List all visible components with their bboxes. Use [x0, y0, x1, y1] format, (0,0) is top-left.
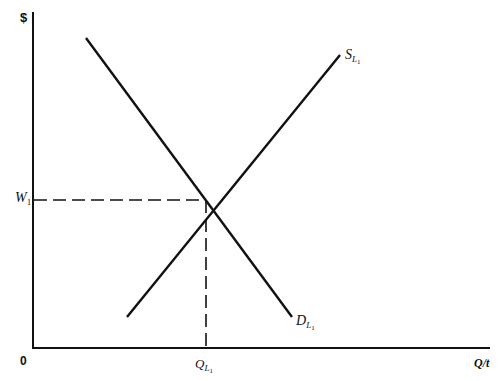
- demand-label-subsub: 1: [311, 324, 315, 332]
- supply-demand-diagram: [0, 0, 500, 381]
- supply-label: SL1: [345, 47, 361, 66]
- quantity-label-sub: L1: [204, 363, 213, 373]
- demand-label-sub: L1: [306, 320, 315, 330]
- supply-label-main: S: [345, 47, 352, 62]
- price-label-main: W: [15, 190, 27, 205]
- demand-label: DL1: [296, 313, 315, 332]
- supply-label-sub: L1: [352, 54, 361, 64]
- quantity-label-subsub: 1: [209, 367, 213, 375]
- quantity-label: QL1: [195, 356, 213, 375]
- supply-label-subsub: 1: [357, 58, 361, 66]
- demand-label-main: D: [296, 313, 306, 328]
- y-axis-label: $: [20, 10, 27, 25]
- origin-label: 0: [20, 354, 27, 368]
- price-label: W1: [15, 190, 31, 207]
- supply-curve: [127, 55, 340, 317]
- quantity-label-main: Q: [195, 356, 204, 371]
- price-label-sub: 1: [27, 197, 32, 207]
- x-axis-label: Q/t: [474, 356, 489, 371]
- demand-curve: [86, 38, 292, 317]
